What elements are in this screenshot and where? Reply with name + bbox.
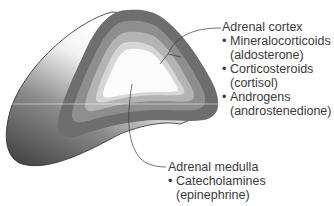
bullet-icon: • xyxy=(168,174,172,188)
bullet-icon: • xyxy=(222,90,226,104)
cortex-item-example: (cortisol) xyxy=(222,76,331,90)
cortex-item-mineralocorticoids: • Mineralocorticoids xyxy=(222,34,331,48)
bullet-icon: • xyxy=(222,34,226,48)
adrenal-gland-diagram: Adrenal cortex • Mineralocorticoids (ald… xyxy=(0,0,334,206)
cortex-item-example: (aldosterone) xyxy=(222,48,331,62)
cortex-item-corticosteroids: • Corticosteroids xyxy=(222,62,331,76)
cortex-label-block: Adrenal cortex • Mineralocorticoids (ald… xyxy=(222,20,331,118)
medulla-title: Adrenal medulla xyxy=(168,160,266,174)
bullet-icon: • xyxy=(222,62,226,76)
cortex-title: Adrenal cortex xyxy=(222,20,331,34)
medulla-label-block: Adrenal medulla • Catecholamines (epinep… xyxy=(168,160,266,202)
medulla-item-catecholamines: • Catecholamines xyxy=(168,174,266,188)
cortex-item-androgens: • Androgens xyxy=(222,90,331,104)
cortex-item-example: (androstenedione) xyxy=(222,104,331,118)
medulla-item-example: (epinephrine) xyxy=(168,188,266,202)
